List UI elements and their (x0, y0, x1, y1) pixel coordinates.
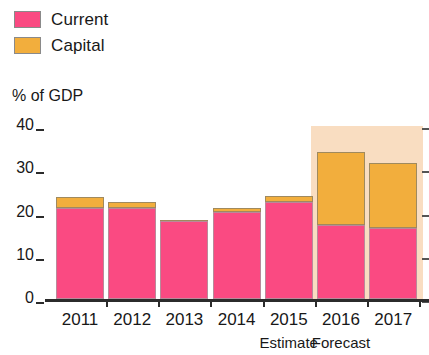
y-tick-mark-right-40 (422, 128, 429, 130)
x-axis-note-forecast: Forecast (297, 335, 385, 350)
y-tick-mark-10 (36, 259, 44, 261)
x-axis-label-2012: 2012 (102, 311, 162, 328)
x-axis-label-2016: 2016 (311, 311, 371, 328)
x-axis-label-2011: 2011 (50, 311, 110, 328)
x-axis-label-2014: 2014 (207, 311, 267, 328)
y-tick-mark-20 (36, 216, 44, 218)
x-axis-label-2013: 2013 (154, 311, 214, 328)
x-tick-mark-2015 (315, 302, 317, 307)
plot-area: 0102030402011201220132014201520162017Est… (0, 0, 429, 355)
bar-2011[interactable] (56, 197, 104, 299)
bar-2013[interactable] (160, 220, 208, 299)
bar-segment-current-2012 (108, 208, 156, 299)
bar-segment-capital-2016 (317, 152, 365, 226)
y-tick-mark-40 (36, 129, 44, 131)
x-axis-label-2017: 2017 (363, 311, 423, 328)
x-tick-mark-2017 (419, 302, 421, 307)
y-tick-mark-0 (36, 302, 44, 304)
x-tick-mark-2012 (158, 302, 160, 307)
y-tick-label-40: 40 (4, 117, 34, 133)
y-tick-mark-right-20 (422, 215, 429, 217)
bar-2015[interactable] (265, 196, 313, 299)
bar-segment-current-2014 (213, 212, 261, 299)
x-axis-label-2015: 2015 (259, 311, 319, 328)
y-tick-label-20: 20 (4, 204, 34, 220)
bar-segment-capital-2011 (56, 197, 104, 208)
y-tick-label-10: 10 (4, 247, 34, 263)
chart-figure: Current Capital % of GDP 010203040201120… (0, 0, 429, 355)
bar-2016[interactable] (317, 152, 365, 299)
x-tick-mark-2016 (367, 302, 369, 307)
bar-2017[interactable] (369, 163, 417, 299)
bar-segment-capital-2017 (369, 163, 417, 228)
y-tick-mark-30 (36, 172, 44, 174)
y-tick-label-0: 0 (4, 290, 34, 306)
x-axis-line (45, 299, 429, 302)
bar-segment-current-2015 (265, 202, 313, 299)
bar-segment-current-2017 (369, 228, 417, 299)
y-tick-mark-right-10 (422, 258, 429, 260)
x-tick-mark-2011 (106, 302, 108, 307)
x-tick-mark-2013 (210, 302, 212, 307)
bar-segment-current-2011 (56, 208, 104, 299)
bar-2012[interactable] (108, 202, 156, 299)
bar-2014[interactable] (213, 208, 261, 299)
bar-segment-current-2013 (160, 221, 208, 299)
x-tick-mark-2014 (263, 302, 265, 307)
y-tick-label-30: 30 (4, 160, 34, 176)
y-tick-mark-right-30 (422, 171, 429, 173)
bar-segment-current-2016 (317, 225, 365, 299)
